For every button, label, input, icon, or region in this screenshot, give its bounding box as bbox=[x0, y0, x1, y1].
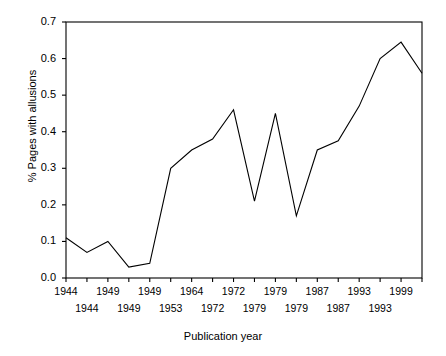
x-tick-label: 1949 bbox=[107, 302, 151, 314]
y-tick-label: 0.0 bbox=[22, 271, 56, 283]
x-tick-label: 1944 bbox=[65, 302, 109, 314]
x-axis-ticks bbox=[66, 278, 422, 282]
x-tick-label: 1949 bbox=[86, 285, 130, 297]
x-tick-label: 1993 bbox=[337, 285, 381, 297]
x-tick-label: 1979 bbox=[253, 285, 297, 297]
x-tick-label: 1979 bbox=[232, 302, 276, 314]
x-tick-label: 1953 bbox=[149, 302, 193, 314]
chart-container: % Pages with allusions Publication year … bbox=[0, 0, 446, 356]
x-tick-label: 1964 bbox=[170, 285, 214, 297]
y-tick-label: 0.4 bbox=[22, 125, 56, 137]
x-tick-label: 1979 bbox=[274, 302, 318, 314]
x-tick-label: 1993 bbox=[358, 302, 402, 314]
x-axis-title: Publication year bbox=[0, 330, 446, 342]
y-axis-ticks bbox=[62, 22, 66, 278]
plot-frame bbox=[66, 22, 422, 278]
x-tick-label: 1999 bbox=[379, 285, 423, 297]
data-series-line bbox=[66, 42, 422, 267]
y-tick-label: 0.2 bbox=[22, 198, 56, 210]
x-tick-label: 1987 bbox=[295, 285, 339, 297]
y-tick-label: 0.5 bbox=[22, 88, 56, 100]
x-tick-label: 1972 bbox=[212, 285, 256, 297]
y-tick-label: 0.3 bbox=[22, 161, 56, 173]
y-tick-label: 0.7 bbox=[22, 15, 56, 27]
x-tick-label: 1972 bbox=[191, 302, 235, 314]
x-tick-label: 1987 bbox=[316, 302, 360, 314]
x-tick-label: 1944 bbox=[44, 285, 88, 297]
x-tick-label: 1949 bbox=[128, 285, 172, 297]
y-tick-label: 0.6 bbox=[22, 52, 56, 64]
y-tick-label: 0.1 bbox=[22, 234, 56, 246]
